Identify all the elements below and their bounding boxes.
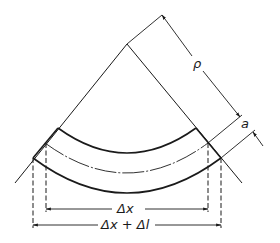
- delta-x-plus-delta-l-label: Δx + Δl: [99, 218, 151, 231]
- beam-bending-diagram: [0, 0, 280, 243]
- a-extension-line: [221, 130, 255, 158]
- rho-dimension-line-lower: [203, 71, 240, 117]
- rho-label: ρ: [191, 57, 203, 70]
- rho-extension-line-2: [208, 115, 242, 143]
- a-dimension-arrow: [253, 132, 263, 146]
- right-radial-line: [127, 44, 242, 183]
- outer-arc: [33, 158, 221, 193]
- neutral-dashed-arc: [45, 143, 208, 173]
- a-label: a: [239, 117, 251, 130]
- delta-x-label: Δx: [115, 202, 136, 215]
- inner-arc: [58, 128, 196, 153]
- left-radial-line: [15, 44, 127, 183]
- rho-extension-line: [127, 15, 162, 44]
- rho-dimension-line-upper: [162, 15, 192, 56]
